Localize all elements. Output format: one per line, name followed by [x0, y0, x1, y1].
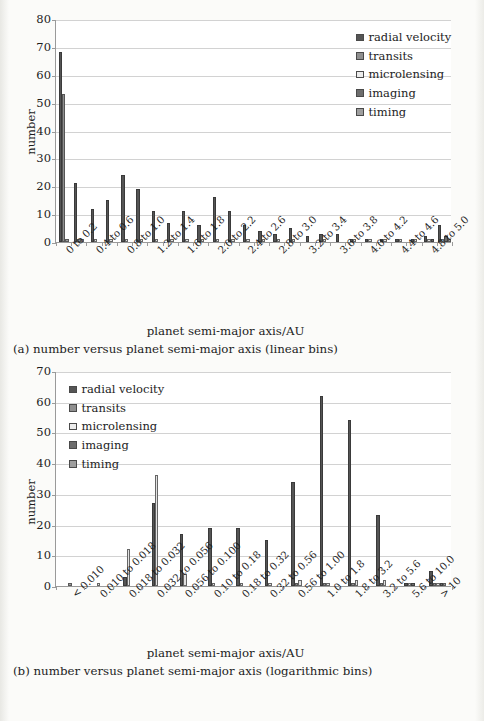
bar-microlensing[interactable] — [277, 239, 280, 242]
legend-item-imaging[interactable]: imaging — [356, 84, 451, 103]
bar-group[interactable] — [86, 20, 101, 242]
x-tick-mark — [169, 586, 170, 590]
bar-group[interactable] — [193, 20, 208, 242]
x-tick-mark — [391, 242, 392, 246]
bar-radial-velocity[interactable] — [320, 396, 323, 586]
legend-item-microlensing[interactable]: microlensing — [356, 65, 451, 84]
bar-group[interactable] — [300, 20, 315, 242]
bar-microlensing[interactable] — [240, 583, 243, 586]
legend-item-microlensing[interactable]: microlensing — [69, 417, 164, 436]
x-tick-mark — [147, 242, 148, 246]
bar-radial-velocity[interactable] — [74, 183, 77, 242]
x-tick-mark — [282, 586, 283, 590]
figure-a: number 01020304050607080 0 to 0.20.4 to … — [0, 20, 451, 243]
plot-wrap-a: 01020304050607080 0 to 0.20.4 to 0.60.8 … — [55, 20, 451, 243]
x-tick-mark — [254, 242, 255, 246]
bar-group[interactable] — [315, 20, 330, 242]
x-axis-title-b: planet semi-major axis/AU — [0, 646, 451, 660]
bar-group[interactable] — [254, 20, 269, 242]
caption-b: (b) number versus planet semi-major axis… — [13, 664, 372, 678]
bar-group[interactable] — [269, 20, 284, 242]
bar-group[interactable] — [102, 20, 117, 242]
bar-group[interactable] — [56, 20, 71, 242]
bar-microlensing[interactable] — [383, 580, 386, 586]
bar-group[interactable] — [284, 20, 299, 242]
y-tick-label: 60 — [36, 70, 51, 82]
x-tick-mark — [178, 242, 179, 246]
bar-radial-velocity[interactable] — [306, 236, 309, 242]
legend-label: imaging — [82, 436, 129, 455]
bar-group[interactable] — [208, 20, 223, 242]
x-tick-mark — [452, 586, 453, 590]
bar-transits[interactable] — [62, 94, 65, 242]
y-tick-label: 50 — [36, 428, 51, 440]
legend-item-timing[interactable]: timing — [69, 455, 164, 474]
bar-group[interactable] — [132, 20, 147, 242]
x-tick-mark — [284, 242, 285, 246]
x-tick-mark — [345, 242, 346, 246]
x-tick-mark — [339, 586, 340, 590]
x-tick-mark — [406, 242, 407, 246]
bar-timing[interactable] — [65, 239, 68, 242]
legend-item-transits[interactable]: transits — [356, 47, 451, 66]
bar-microlensing[interactable] — [212, 583, 215, 586]
bar-group[interactable] — [239, 20, 254, 242]
bar-timing[interactable] — [68, 583, 71, 586]
legend-swatch-icon — [356, 34, 364, 42]
bar-group[interactable] — [395, 372, 423, 586]
bar-microlensing[interactable] — [216, 239, 219, 242]
legend-item-transits[interactable]: transits — [69, 399, 164, 418]
x-tick-mark — [141, 586, 142, 590]
bar-group[interactable] — [147, 20, 162, 242]
bar-microlensing[interactable] — [97, 583, 100, 586]
x-tick-mark — [361, 242, 362, 246]
bar-group[interactable] — [224, 20, 239, 242]
x-tick-mark — [193, 242, 194, 246]
bar-group[interactable] — [178, 20, 193, 242]
legend-swatch-icon — [69, 386, 77, 394]
y-tick-label: 0 — [44, 581, 51, 593]
bar-microlensing[interactable] — [246, 239, 249, 242]
legend-item-imaging[interactable]: imaging — [69, 436, 164, 455]
bar-radial-velocity[interactable] — [348, 420, 351, 586]
bar-group[interactable] — [71, 20, 86, 242]
legend-item-radial-velocity[interactable]: radial velocity — [356, 28, 451, 47]
bar-group[interactable] — [163, 20, 178, 242]
bar-microlensing[interactable] — [125, 239, 128, 242]
x-tick-mark — [132, 242, 133, 246]
legend-swatch-icon — [69, 423, 77, 431]
bar-microlensing[interactable] — [185, 239, 188, 242]
bar-microlensing[interactable] — [155, 239, 158, 242]
bar-group[interactable] — [330, 20, 345, 242]
x-tick-mark — [452, 242, 453, 246]
bar-microlensing[interactable] — [94, 239, 97, 242]
plot-wrap-b: 010203040506070 < 0.0100.010 to 0.0180.0… — [55, 372, 451, 587]
bar-microlensing[interactable] — [355, 580, 358, 586]
bar-microlensing[interactable] — [268, 583, 271, 586]
x-tick-mark — [208, 242, 209, 246]
legend-item-radial-velocity[interactable]: radial velocity — [69, 380, 164, 399]
y-tick-label: 70 — [36, 42, 51, 54]
legend-label: microlensing — [82, 417, 158, 436]
legend-label: timing — [369, 103, 407, 122]
bar-group[interactable] — [117, 20, 132, 242]
bar-radial-velocity[interactable] — [336, 234, 339, 242]
x-tick-mark — [367, 586, 368, 590]
legend-label: timing — [82, 455, 120, 474]
y-tick-label: 80 — [36, 14, 51, 26]
figure-b: number 010203040506070 < 0.0100.010 to 0… — [0, 372, 451, 587]
legend-swatch-icon — [69, 441, 77, 449]
legend-label: radial velocity — [82, 380, 165, 399]
y-tick-label: 40 — [36, 458, 51, 470]
y-tick-label: 0 — [44, 237, 51, 249]
x-tick-mark — [102, 242, 103, 246]
bar-microlensing[interactable] — [399, 239, 402, 242]
bar-microlensing[interactable] — [326, 583, 329, 586]
x-tick-mark — [71, 242, 72, 246]
legend-swatch-icon — [356, 108, 364, 116]
bar-group[interactable] — [367, 372, 395, 586]
bar-imaging[interactable] — [411, 583, 414, 586]
bar-microlensing[interactable] — [368, 239, 371, 242]
legend-a: radial velocitytransitsmicrolensingimagi… — [356, 28, 451, 121]
legend-item-timing[interactable]: timing — [356, 103, 451, 122]
